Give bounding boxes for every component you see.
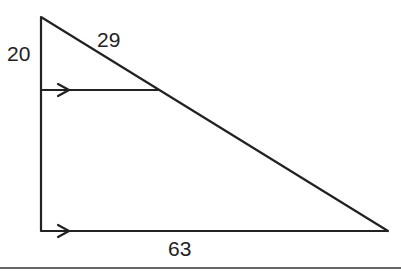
label-base: 63 [168, 237, 191, 260]
label-hypotenuse: 29 [97, 28, 120, 51]
triangle-diagram: 20 29 63 [0, 0, 401, 277]
triangle-outline [41, 17, 388, 231]
label-left-side: 20 [7, 42, 30, 65]
